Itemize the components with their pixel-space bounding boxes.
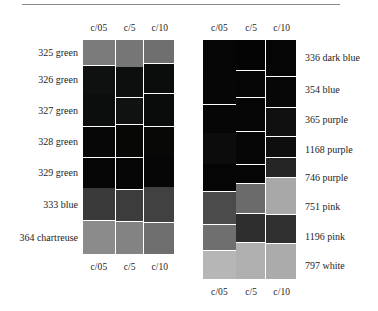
- left-column-header-top-0: c/05: [83, 23, 115, 33]
- swatch-cell: [144, 155, 174, 186]
- right-row-label-6: 1196 pink: [305, 232, 345, 242]
- left-column-header-top-1: c/5: [115, 23, 145, 33]
- swatch-cell: [266, 108, 297, 137]
- swatch-cell: [116, 158, 144, 189]
- swatch-cell: [236, 40, 264, 70]
- swatch-cell: [266, 137, 297, 157]
- right-column-header-bottom-1: c/5: [236, 287, 267, 297]
- left-row-label-5: 333 blue: [43, 200, 78, 210]
- swatch-cell: [83, 188, 115, 220]
- swatch-cell: [236, 165, 264, 183]
- swatch-cell: [236, 98, 264, 132]
- figure-page: c/05c/5c/10 325 green326 green327 green3…: [0, 0, 378, 311]
- swatch-cell: [83, 158, 115, 188]
- swatch-cell: [83, 127, 115, 157]
- swatch-cell: [83, 66, 115, 94]
- swatch-cell: [203, 225, 236, 251]
- left-row-label-4: 329 green: [38, 168, 78, 178]
- right-row-label-5: 751 pink: [305, 202, 340, 212]
- swatch-cell: [83, 40, 115, 65]
- left-row-label-0: 325 green: [38, 48, 78, 58]
- swatch-cell: [203, 164, 236, 191]
- swatch-cell: [203, 40, 236, 77]
- left-column-header-top-2: c/10: [145, 23, 175, 33]
- right-row-label-7: 797 white: [305, 261, 345, 271]
- swatch-cell: [116, 67, 144, 97]
- swatch-cell: [203, 192, 236, 224]
- swatch-cell: [236, 243, 264, 279]
- swatch-cell: [203, 251, 236, 279]
- swatch-cell: [116, 190, 144, 222]
- right-column-header-bottom-2: c/10: [266, 287, 297, 297]
- right-row-labels: 336 dark blue354 blue365 purple1168 purp…: [305, 40, 378, 280]
- swatch-cell: [83, 221, 115, 254]
- swatch-cell: [203, 133, 236, 163]
- left-row-label-6: 364 chartreuse: [19, 233, 78, 243]
- right-column-header-top-2: c/10: [266, 23, 297, 33]
- swatch-cell: [116, 222, 144, 254]
- right-row-label-2: 365 purple: [305, 115, 348, 125]
- swatch-cell: [236, 184, 264, 213]
- top-horizontal-rule: [22, 4, 340, 5]
- swatch-cell: [144, 94, 174, 126]
- swatch-cell: [266, 215, 297, 243]
- right-column-header-top-1: c/5: [236, 23, 267, 33]
- right-column-header-top-0: c/05: [203, 23, 236, 33]
- swatch-cell: [266, 77, 297, 107]
- right-column-header-bottom-0: c/05: [203, 287, 236, 297]
- swatch-cell: [236, 132, 264, 164]
- swatch-cell: [203, 105, 236, 133]
- swatch-cell: [266, 158, 297, 178]
- left-row-labels: 325 green326 green327 green328 green329 …: [0, 40, 78, 255]
- swatch-cell: [203, 77, 236, 104]
- left-column-header-bottom-0: c/05: [83, 262, 115, 272]
- left-row-label-3: 328 green: [38, 137, 78, 147]
- swatch-cell: [116, 98, 144, 125]
- swatch-cell: [144, 127, 174, 155]
- left-row-label-2: 327 green: [38, 106, 78, 116]
- swatch-cell: [144, 64, 174, 93]
- left-column-header-bottom-2: c/10: [145, 262, 175, 272]
- left-row-label-1: 326 green: [38, 75, 78, 85]
- right-row-label-0: 336 dark blue: [305, 53, 360, 63]
- swatch-cell: [83, 94, 115, 126]
- right-swatch-grid: [203, 40, 297, 280]
- swatch-cell: [236, 214, 264, 242]
- swatch-cell: [116, 125, 144, 157]
- swatch-cell: [266, 244, 297, 279]
- right-row-label-3: 1168 purple: [305, 145, 353, 155]
- swatch-cell: [266, 178, 297, 214]
- swatch-cell: [236, 71, 264, 97]
- swatch-cell: [116, 40, 144, 67]
- right-row-label-1: 354 blue: [305, 85, 340, 95]
- left-swatch-grid: [83, 40, 175, 255]
- swatch-cell: [266, 40, 297, 76]
- right-row-label-4: 746 purple: [305, 173, 348, 183]
- swatch-cell: [144, 187, 174, 221]
- swatch-cell: [144, 223, 174, 255]
- left-column-header-bottom-1: c/5: [115, 262, 145, 272]
- swatch-cell: [144, 40, 174, 63]
